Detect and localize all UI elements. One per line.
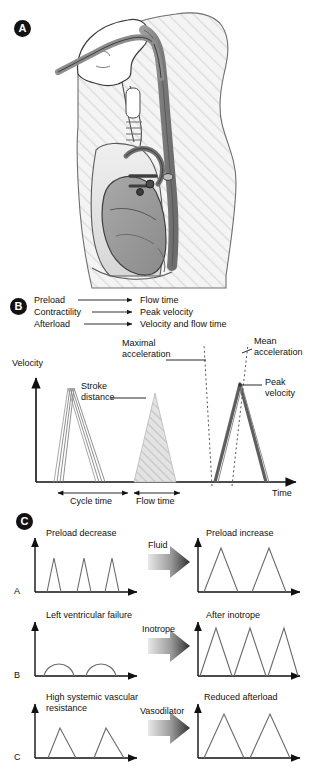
- dimension-label-cycle-time: Cycle time: [70, 496, 112, 507]
- row-b-after-waveforms: [200, 628, 298, 676]
- panel-c-row-a: A Preload decrease Fluid Preload increas…: [0, 524, 314, 606]
- row-b-intervention-label: Inotrope: [142, 624, 175, 635]
- determinants-list: Preload Contractility Afterload Flow tim…: [0, 292, 314, 332]
- determinant-cause-contractility: Contractility: [34, 307, 81, 318]
- annotation-mean-acceleration-line2: acceleration: [254, 347, 303, 358]
- row-b-before-label: Left ventricular failure: [46, 610, 138, 621]
- panel-c-row-b: B Left ventricular failure Inotrope Afte…: [0, 608, 314, 690]
- row-c-intervention-label: Vasodilator: [140, 706, 184, 717]
- anatomy-illustration: [0, 0, 314, 288]
- row-letter-a: A: [14, 586, 20, 596]
- intervention-arrow-inotrope: [148, 630, 190, 662]
- velocity-time-plot: [0, 336, 314, 506]
- annotation-mean-acceleration-line1: Mean: [254, 336, 277, 347]
- panel-c-row-c: C High systemic vascular resistance Vaso…: [0, 692, 314, 773]
- determinant-effect-velocity-flow-time: Velocity and flow time: [140, 319, 227, 330]
- row-a-intervention-label: Fluid: [148, 540, 168, 551]
- row-a-before-waveforms: [47, 558, 119, 592]
- dimension-label-flow-time: Flow time: [136, 496, 175, 507]
- row-a-before-label: Preload decrease: [46, 528, 117, 539]
- intervention-arrow-vasodilator: [148, 712, 190, 744]
- determinant-cause-afterload: Afterload: [34, 319, 70, 330]
- row-a-after-waveforms: [204, 548, 286, 592]
- annotation-stroke-distance-line1: Stroke: [81, 381, 107, 392]
- row-b-before-waveforms: [44, 664, 116, 676]
- annotation-stroke-distance-line2: distance: [81, 392, 115, 403]
- determinant-effect-peak-velocity: Peak velocity: [140, 307, 193, 318]
- x-axis-label: Time: [272, 488, 292, 499]
- annotation-peak-velocity-line1: Peak: [265, 377, 286, 388]
- row-c-after-label: Reduced afterload: [204, 692, 278, 703]
- figure-root: A: [0, 0, 314, 773]
- row-letter-c: C: [14, 752, 21, 762]
- annotation-peak-velocity-line2: velocity: [265, 388, 295, 399]
- line-maximal-acceleration: [204, 344, 212, 486]
- panel-b-waveform-chart: Velocity Time Stroke distance Maximal ac…: [0, 336, 314, 506]
- determinant-cause-preload: Preload: [34, 295, 65, 306]
- acceleration-slope-lines: [204, 344, 248, 486]
- row-letter-b: B: [14, 670, 20, 680]
- row-c-before-label: High systemic vascular resistance: [46, 692, 142, 713]
- intervention-arrow-fluid: [148, 546, 190, 578]
- y-axis-label: Velocity: [12, 358, 43, 369]
- determinant-effect-flow-time: Flow time: [140, 295, 179, 306]
- row-c-before-waveforms: [48, 728, 124, 758]
- row-c-after-waveforms: [204, 714, 290, 758]
- row-a-after-label: Preload increase: [206, 528, 274, 539]
- waveform-stroke-distance: [134, 393, 176, 482]
- panel-a-anatomy: [0, 0, 314, 288]
- row-b-after-label: After inotrope: [206, 610, 260, 621]
- annotation-maximal-acceleration-line2: acceleration: [122, 349, 171, 360]
- peak-velocity-marker: [238, 383, 242, 387]
- annotation-maximal-acceleration-line1: Maximal: [122, 338, 156, 349]
